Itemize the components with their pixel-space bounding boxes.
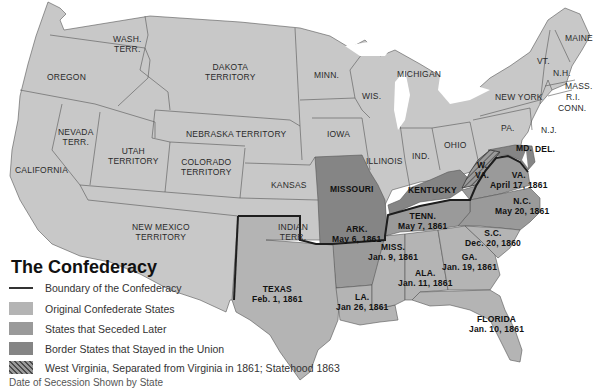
label-indian: INDIANTERR. [278, 222, 308, 242]
legend-border: Border States that Stayed in the Union [9, 342, 224, 355]
label-wis: WIS. [362, 91, 381, 101]
label-texas: TEXASFeb. 1, 1861 [252, 284, 303, 304]
later-swatch [9, 322, 33, 335]
label-dakota: DAKOTATERRITORY [205, 62, 256, 82]
label-illinois: ILLINOIS [366, 156, 403, 166]
label-nc: N.C.May 20, 1861 [495, 196, 549, 216]
label-maine: MAINE [565, 33, 593, 43]
label-pa: PA. [501, 123, 515, 133]
map-title: The Confederacy [11, 257, 157, 278]
label-newmexico: NEW MEXICOTERRITORY [132, 222, 190, 242]
legend-label: Original Confederate States [45, 303, 175, 315]
label-del: DEL. [535, 144, 555, 154]
legend-label: States that Seceded Later [45, 323, 166, 335]
legend-later: States that Seceded Later [9, 322, 166, 335]
legend-wva: West Virginia, Separated from Virginia i… [9, 361, 340, 374]
label-colorado: COLORADOTERRITORY [181, 157, 232, 177]
label-va: VA.April 17, 1861 [490, 170, 548, 190]
boundary-line-swatch [9, 287, 33, 289]
label-md: MD. [516, 143, 532, 153]
legend-label: Border States that Stayed in the Union [45, 343, 224, 355]
label-oregon: OREGON [47, 72, 86, 82]
label-la: LA.Jan 26, 1861 [336, 292, 389, 312]
hatched-swatch [9, 361, 33, 374]
label-ri: R.I. [566, 92, 580, 102]
legend-original: Original Confederate States [9, 302, 175, 315]
label-ind: IND. [412, 151, 430, 161]
label-kansas: KANSAS [271, 180, 307, 190]
label-iowa: IOWA [327, 129, 350, 139]
legend-boundary: Boundary of the Confederacy [9, 282, 182, 294]
label-florida: FLORIDAJan. 10, 1861 [469, 314, 524, 334]
label-ohio: OHIO [444, 140, 467, 150]
label-missouri: MISSOURI [330, 184, 374, 194]
label-wash: WASH.TERR. [113, 34, 142, 54]
label-mass: MASS. [565, 81, 592, 91]
label-wva: W.VA. [475, 160, 489, 180]
legend-label: Boundary of the Confederacy [45, 282, 182, 294]
label-vt: VT. [537, 56, 550, 66]
border-swatch [9, 342, 33, 355]
caption: Date of Secession Shown by State [9, 377, 163, 388]
legend-label: West Virginia, Separated from Virginia i… [45, 362, 340, 374]
label-ala: ALA.Jan. 11, 1861 [398, 268, 453, 288]
label-nj: N.J. [541, 125, 557, 135]
label-nh: N.H. [553, 68, 571, 78]
label-michigan: MICHIGAN [397, 69, 441, 79]
label-newyork: NEW YORK [495, 92, 543, 102]
label-tenn: TENN.May 7, 1861 [398, 211, 447, 231]
original-swatch [9, 302, 33, 315]
label-utah: UTAHTERRITORY [108, 146, 159, 166]
label-ark: ARK.May 6, 1861 [332, 224, 381, 244]
label-conn: CONN. [558, 103, 586, 113]
label-sc: S.C.Dec. 20, 1860 [465, 228, 521, 248]
label-nebraska: NEBRASKA TERRITORY [186, 129, 286, 139]
label-california: CALIFORNIA [15, 165, 68, 175]
label-kentucky: KENTUCKY [408, 185, 457, 195]
label-minn: MINN. [314, 70, 339, 80]
label-nevada: NEVADATERR. [58, 127, 94, 147]
label-miss: MISS.Jan. 9, 1861 [368, 242, 418, 262]
